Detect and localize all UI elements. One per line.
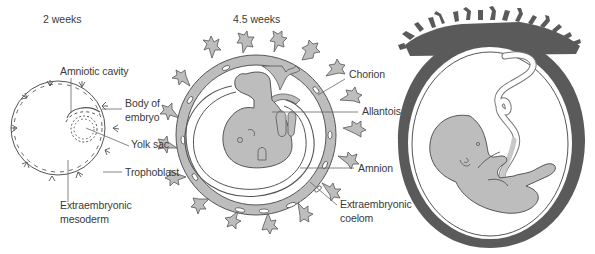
two-week-conceptus: [11, 80, 119, 181]
label-body-of-embryo-line1: Body of: [125, 96, 160, 110]
label-extraembryonic-mesoderm-line2: mesoderm: [60, 212, 109, 226]
fetus-in-placenta: [398, 6, 585, 248]
label-extraembryonic-coelom-line2: coelom: [340, 211, 373, 225]
label-extraembryonic-coelom-line1: Extraembryonic: [340, 197, 412, 211]
label-trophoblast: Trophoblast: [125, 165, 179, 179]
panel-title-4-5-weeks: 4.5 weeks: [233, 13, 280, 25]
label-chorion: Chorion: [349, 67, 385, 81]
embryo-development-figure: 2 weeks: [0, 0, 595, 254]
label-allantois: Allantois: [362, 104, 401, 118]
label-yolk-sac: Yolk sac: [131, 137, 169, 151]
label-amnion: Amnion: [358, 161, 393, 175]
label-amniotic-cavity: Amniotic cavity: [60, 64, 129, 78]
label-body-of-embryo-line2: embryo: [125, 110, 159, 124]
label-extraembryonic-mesoderm-line1: Extraembryonic: [60, 198, 132, 212]
